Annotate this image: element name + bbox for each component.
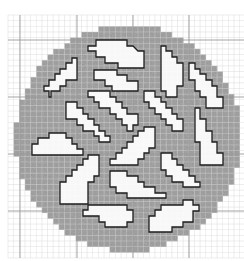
wafer-diagram-canvas <box>0 0 244 261</box>
wafer-diagram <box>0 0 244 261</box>
